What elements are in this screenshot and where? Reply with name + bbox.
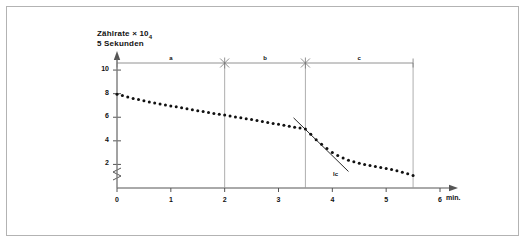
data-point (325, 147, 328, 150)
x-axis-tick-label: 6 (433, 196, 447, 203)
data-point (132, 97, 135, 100)
data-point (191, 108, 194, 111)
data-point (401, 171, 404, 174)
data-point (180, 106, 183, 109)
data-point (245, 117, 248, 120)
data-point (142, 99, 145, 102)
y-axis-tick-label: 2 (93, 159, 109, 166)
data-point (272, 122, 275, 125)
x-axis-tick-label: 4 (325, 196, 339, 203)
data-point (169, 104, 172, 107)
data-point (175, 105, 178, 108)
data-point (406, 172, 409, 175)
data-point (299, 127, 302, 130)
data-point (218, 113, 221, 116)
data-point (331, 151, 334, 154)
data-point (293, 126, 296, 129)
data-point (137, 98, 140, 101)
data-point (282, 124, 285, 127)
data-point (320, 143, 323, 146)
figure-container: Zählrate × 104 5 Sekunden min. lc 246810… (0, 0, 527, 244)
data-point (261, 120, 264, 123)
data-point (207, 111, 210, 114)
interval-label: c (353, 55, 365, 61)
data-point (202, 110, 205, 113)
data-point (234, 116, 237, 119)
data-point (309, 133, 312, 136)
data-point (116, 93, 119, 96)
chart-plot (0, 0, 527, 244)
data-point (315, 138, 318, 141)
y-axis-tick-label: 4 (93, 136, 109, 143)
data-point (352, 160, 355, 163)
data-point (223, 114, 226, 117)
data-point (159, 103, 162, 106)
data-point (288, 125, 291, 128)
data-point (229, 115, 232, 118)
data-point (212, 112, 215, 115)
y-axis-tick-label: 6 (93, 112, 109, 119)
data-point (336, 154, 339, 157)
data-point (239, 116, 242, 119)
x-axis-tick-label: 2 (218, 196, 232, 203)
data-point (266, 121, 269, 124)
data-point (255, 119, 258, 122)
interval-label: a (165, 55, 177, 61)
data-point (304, 128, 307, 131)
x-axis-tick-label: 3 (272, 196, 286, 203)
data-point (374, 165, 377, 168)
data-point (121, 94, 124, 97)
y-axis-tick-label: 8 (93, 89, 109, 96)
data-point (164, 103, 167, 106)
x-axis-tick-label: 1 (164, 196, 178, 203)
data-point (412, 174, 415, 177)
y-axis-tick-label: 10 (93, 65, 109, 72)
data-point (148, 100, 151, 103)
chart-svg-root (113, 51, 458, 192)
data-point (185, 107, 188, 110)
x-axis-tick-label: 0 (110, 196, 124, 203)
data-point (363, 163, 366, 166)
interval-label: b (259, 55, 271, 61)
x-axis-unit-label: min. (446, 194, 460, 201)
data-point (379, 166, 382, 169)
tangent-line-label: lc (333, 171, 338, 177)
x-axis-arrow (449, 185, 458, 191)
data-point (196, 109, 199, 112)
data-point (250, 118, 253, 121)
data-point (385, 167, 388, 170)
data-point (369, 164, 372, 167)
data-point (347, 159, 350, 162)
data-point (390, 168, 393, 171)
data-point (358, 162, 361, 165)
data-point (153, 102, 156, 105)
x-axis-tick-label: 5 (379, 196, 393, 203)
data-point (277, 123, 280, 126)
data-point (126, 95, 129, 98)
data-point (342, 157, 345, 160)
data-point (395, 169, 398, 172)
